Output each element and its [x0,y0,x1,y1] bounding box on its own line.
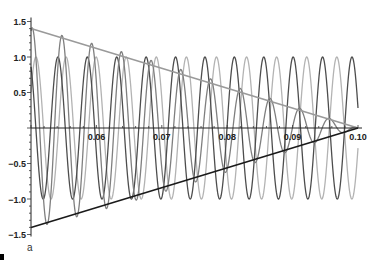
chart-figure: 0.060.070.080.090.101.51.00.5−0.5−1.0−1.… [0,0,379,264]
y-tick-label: −0.5 [8,159,26,169]
y-tick-label: 0.5 [13,88,26,98]
x-tick-label: 0.09 [284,132,302,142]
y-tick-label: 1.0 [13,53,26,63]
axes: 0.060.070.080.090.101.51.00.5−0.5−1.0−1.… [8,17,367,240]
y-tick-label: 1.5 [13,17,26,27]
x-tick-label: 0.06 [88,132,106,142]
x-tick-label: 0.07 [153,132,171,142]
x-tick-label: 0.10 [349,132,367,142]
line-chart: 0.060.070.080.090.101.51.00.5−0.5−1.0−1.… [0,0,379,264]
panel-label: a [27,242,33,253]
corner-marker [0,254,4,260]
x-tick-label: 0.08 [218,132,236,142]
wave-curves [31,28,358,224]
y-tick-label: −1.0 [8,195,26,205]
y-tick-label: −1.5 [8,230,26,240]
upper-envelope-line [31,29,358,128]
